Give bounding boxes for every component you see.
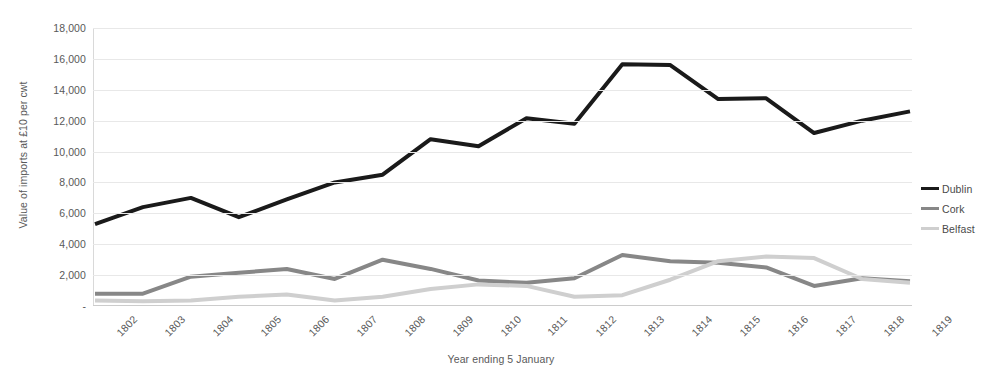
line-chart: Value of imports at £10 per cwt -2,0004,… xyxy=(0,0,1002,387)
x-axis-tick-label: 1808 xyxy=(402,313,427,338)
legend-item-cork[interactable]: Cork xyxy=(921,200,999,217)
legend-swatch-icon xyxy=(921,227,939,230)
legend-swatch-icon xyxy=(921,207,939,210)
x-axis-tick-labels: 1802180318041805180618071808180918101811… xyxy=(0,0,1002,387)
x-axis-tick-label: 1814 xyxy=(689,313,714,338)
x-axis-tick-label: 1804 xyxy=(210,313,235,338)
legend-label: Cork xyxy=(942,203,965,215)
x-axis-tick-label: 1809 xyxy=(450,313,475,338)
x-axis-tick-label: 1815 xyxy=(737,313,762,338)
x-axis-tick-label: 1811 xyxy=(545,313,570,338)
legend: DublinCorkBelfast xyxy=(921,180,999,240)
legend-item-belfast[interactable]: Belfast xyxy=(921,220,999,237)
x-axis-title: Year ending 5 January xyxy=(0,353,1002,365)
x-axis-tick-label: 1812 xyxy=(593,313,618,338)
x-axis-tick-label: 1802 xyxy=(114,313,139,338)
legend-label: Dublin xyxy=(942,183,972,195)
legend-item-dublin[interactable]: Dublin xyxy=(921,180,999,197)
x-axis-tick-label: 1819 xyxy=(929,313,954,338)
legend-swatch-icon xyxy=(921,187,939,190)
x-axis-tick-label: 1805 xyxy=(258,313,283,338)
x-axis-tick-label: 1813 xyxy=(641,313,666,338)
x-axis-tick-label: 1803 xyxy=(162,313,187,338)
x-axis-tick-label: 1818 xyxy=(881,313,906,338)
x-axis-tick-label: 1806 xyxy=(306,313,331,338)
x-axis-tick-label: 1817 xyxy=(833,313,858,338)
x-axis-tick-label: 1816 xyxy=(785,313,810,338)
x-axis-tick-label: 1807 xyxy=(354,313,379,338)
legend-label: Belfast xyxy=(942,223,975,235)
x-axis-tick-label: 1810 xyxy=(497,313,522,338)
